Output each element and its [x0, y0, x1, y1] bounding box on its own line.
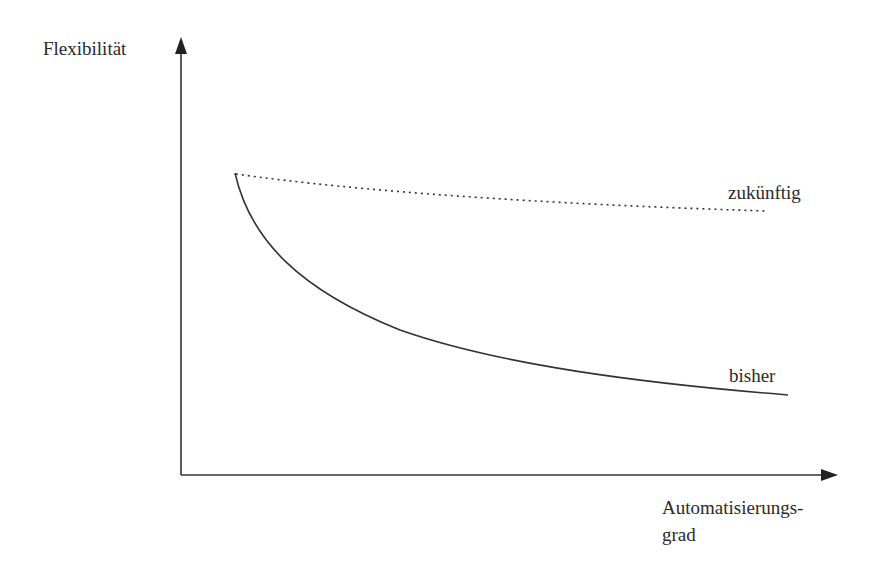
y-axis-label: Flexibilität — [43, 38, 126, 60]
curve-label-bisher: bisher — [729, 365, 775, 387]
curve-bisher — [235, 173, 788, 395]
diagram-canvas — [0, 0, 887, 576]
y-axis-arrow-icon — [175, 37, 187, 54]
y-axis — [175, 37, 187, 475]
x-axis-arrow-icon — [821, 469, 838, 481]
curve-zukuenftig — [236, 174, 766, 211]
curve-label-zukuenftig: zukünftig — [728, 182, 801, 204]
x-axis — [181, 469, 838, 481]
x-axis-label-line2: grad — [662, 524, 696, 546]
x-axis-label-line1: Automatisierungs- — [662, 497, 803, 519]
